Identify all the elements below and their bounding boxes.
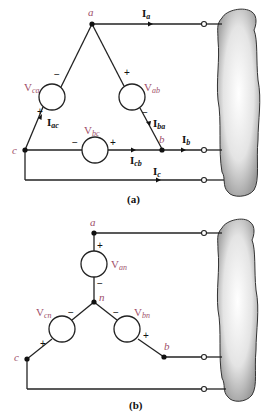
vbc-label: Vbc (84, 124, 100, 138)
van-plus: + (97, 240, 103, 251)
node-n (91, 299, 96, 304)
vcn-label: Vcn (36, 306, 52, 320)
vab-label: Vab (144, 81, 160, 95)
vcn-minus: − (68, 307, 74, 318)
van-minus: − (97, 278, 103, 289)
vca-label: Vca (24, 81, 40, 95)
ib-label: Ib (182, 133, 190, 147)
node-n-label: n (99, 291, 105, 303)
node-c-label: c (12, 144, 17, 156)
vab-plus: + (124, 67, 130, 78)
load-blob-b (217, 219, 257, 401)
ic-label: Ic (153, 165, 161, 179)
icb-label: Icb (130, 154, 142, 168)
terminal-a (202, 22, 207, 27)
vca-plus: + (37, 106, 43, 117)
arrow-ia (148, 22, 153, 27)
source-van (81, 251, 107, 277)
node-b-wye (161, 354, 166, 359)
delta-circuit: a b c Vca Vab Vbc − + + − − + Ia Ib Ic I… (12, 6, 260, 206)
source-vbn (114, 316, 140, 342)
terminal-b-wye (202, 355, 207, 360)
source-vcn (49, 316, 75, 342)
node-b-wye-label: b (164, 340, 170, 352)
caption-b: (b) (129, 399, 143, 412)
arrow-icb (131, 148, 136, 153)
node-a (89, 21, 94, 26)
vcn-plus: + (40, 338, 46, 349)
terminal-b (202, 148, 207, 153)
three-phase-circuit-diagram: a b c Vca Vab Vbc − + + − − + Ia Ib Ic I… (0, 0, 272, 420)
vbn-plus: + (143, 330, 149, 341)
iac-label: Iac (47, 116, 59, 130)
ia-label: Ia (142, 7, 150, 21)
node-c-wye (24, 356, 29, 361)
node-a-label: a (88, 6, 94, 18)
vab-minus: − (142, 107, 148, 118)
vbc-plus: + (110, 137, 116, 148)
node-c (22, 147, 27, 152)
wire-a-vca (61, 24, 92, 87)
terminal-c-wye (202, 387, 207, 392)
node-b (159, 147, 164, 152)
source-vca (39, 84, 65, 110)
iba-label: Iba (153, 117, 165, 131)
source-vbc (82, 137, 108, 163)
node-b-label: b (159, 133, 165, 145)
wire-n-vcn (72, 302, 94, 320)
vbc-minus: − (72, 137, 78, 148)
wire-a-vab (92, 24, 124, 86)
wire-vbn-b (138, 339, 164, 357)
vbn-label: Vbn (134, 306, 150, 320)
arrow-ib (181, 148, 186, 153)
terminal-a-wye (202, 231, 207, 236)
caption-a: (a) (127, 193, 140, 206)
wye-circuit: a n b c Van Vcn Vbn + − − + − + (b) (14, 216, 258, 412)
van-label: Van (111, 258, 127, 272)
load-blob-a (217, 9, 259, 196)
node-a-wye-label: a (90, 216, 96, 228)
vbn-minus: − (113, 307, 119, 318)
node-c-wye-label: c (14, 351, 19, 363)
vca-minus: − (54, 69, 60, 80)
node-a-wye (91, 230, 96, 235)
terminal-c (202, 178, 207, 183)
